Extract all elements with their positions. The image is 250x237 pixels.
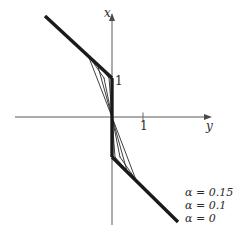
legend-alpha-symbol: α = 0 — [185, 212, 216, 225]
y-axis-tick-label-1: 1 — [140, 120, 148, 132]
legend-alpha-symbol: α = 0.1 — [185, 199, 226, 212]
legend-alpha-symbol: α = 0.15 — [185, 186, 233, 199]
figure-root: x y 1 1 α = 0.15 α = 0.1 α = 0 — [0, 0, 250, 237]
legend-item-alpha-0: α = 0 — [185, 212, 233, 225]
x-axis-tick-label-1: 1 — [115, 75, 123, 87]
x-axis-label: x — [104, 7, 111, 19]
legend-item-alpha-0-1: α = 0.1 — [185, 199, 233, 212]
legend: α = 0.15 α = 0.1 α = 0 — [185, 186, 233, 225]
y-axis-label: y — [206, 120, 213, 132]
legend-item-alpha-0-15: α = 0.15 — [185, 186, 233, 199]
